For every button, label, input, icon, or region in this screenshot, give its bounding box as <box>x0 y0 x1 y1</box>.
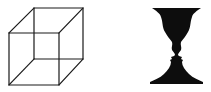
necker-cube-drawing <box>0 0 105 92</box>
vase-silhouette <box>150 8 203 84</box>
cube-edge <box>9 59 34 85</box>
rubin-vase-drawing <box>105 0 211 92</box>
cube-edge <box>59 59 83 85</box>
cube-edge <box>9 8 34 33</box>
rubin-vase-figure: Rubin vase <box>105 0 211 92</box>
cube-edge <box>59 8 83 33</box>
necker-cube-figure: Necker cube <box>0 0 105 92</box>
